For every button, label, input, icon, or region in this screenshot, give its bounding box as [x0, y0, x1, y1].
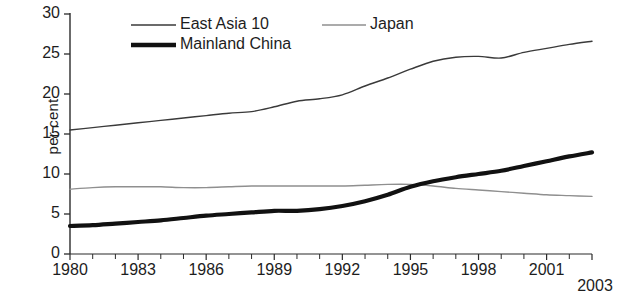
x-tick-label: 1989: [244, 262, 304, 278]
x-tick-label: 2003: [565, 278, 625, 294]
y-tick-label: 5: [26, 205, 60, 221]
y-tick-label: 0: [26, 245, 60, 261]
y-axis-ticks: [64, 14, 70, 254]
legend-label: Mainland China: [180, 36, 291, 52]
series-path: [70, 152, 592, 226]
x-tick-label: 2001: [517, 262, 577, 278]
x-tick-label: 1980: [40, 262, 100, 278]
y-tick-label: 25: [26, 45, 60, 61]
x-tick-label: 1995: [380, 262, 440, 278]
x-tick-label: 1998: [449, 262, 509, 278]
y-tick-label: 10: [26, 165, 60, 181]
chart-figure: per cent 3025201510501980198319861989199…: [0, 0, 626, 298]
legend-label: Japan: [370, 16, 414, 32]
x-tick-label: 1992: [312, 262, 372, 278]
line-chart-canvas: [0, 0, 626, 298]
axes: [70, 13, 592, 254]
series-line: [70, 184, 592, 196]
y-tick-label: 15: [26, 125, 60, 141]
series-path: [70, 184, 592, 196]
legend-label: East Asia 10: [180, 16, 269, 32]
series-line: [70, 152, 592, 226]
series-line: [70, 41, 592, 130]
y-tick-label: 30: [26, 5, 60, 21]
x-axis-ticks: [70, 254, 592, 260]
x-tick-label: 1983: [108, 262, 168, 278]
series-path: [70, 41, 592, 130]
y-tick-label: 20: [26, 85, 60, 101]
x-tick-label: 1986: [176, 262, 236, 278]
